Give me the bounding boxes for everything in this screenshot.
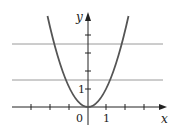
- x-axis-label: x: [161, 112, 168, 126]
- x-axis-arrow-icon: [159, 104, 167, 110]
- y-axis: [85, 12, 91, 125]
- parabola-graph: y x 0 1 1: [0, 0, 178, 137]
- x-tick-label-1: 1: [103, 112, 110, 125]
- y-axis-arrow-icon: [85, 12, 91, 21]
- y-axis-label: y: [75, 10, 83, 24]
- origin-label: 0: [76, 112, 83, 125]
- y-tick-label-1: 1: [78, 83, 85, 96]
